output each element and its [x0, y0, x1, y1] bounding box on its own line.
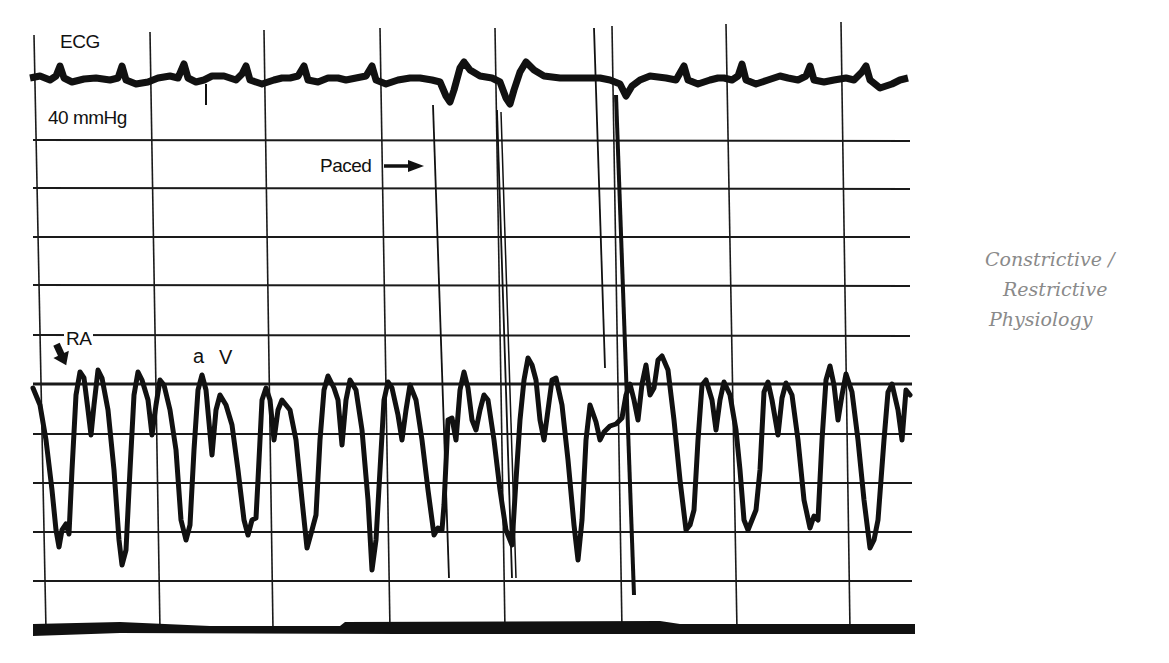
annotation-line-1: Constrictive /: [985, 244, 1165, 274]
ecg-label: ECG: [60, 31, 100, 53]
right-arrow-icon: [384, 160, 424, 172]
ecg-trace: [30, 62, 908, 104]
a-wave-label: a: [193, 345, 204, 368]
ra-label: RA: [64, 328, 93, 350]
pacing-spikes: [433, 28, 634, 595]
annotation-line-3: Physiology: [989, 304, 1165, 334]
scale-label: 40 mmHg: [48, 107, 127, 129]
handwritten-annotation: Constrictive / Restrictive Physiology: [985, 244, 1165, 334]
horizontal-grid: [33, 140, 912, 581]
v-wave-label: V: [219, 346, 232, 369]
paced-label: Paced: [320, 155, 371, 177]
vertical-grid: [34, 22, 850, 630]
ra-pressure-trace: [33, 356, 910, 570]
annotation-line-2: Restrictive: [1003, 274, 1165, 304]
baseline-band: [33, 621, 915, 636]
